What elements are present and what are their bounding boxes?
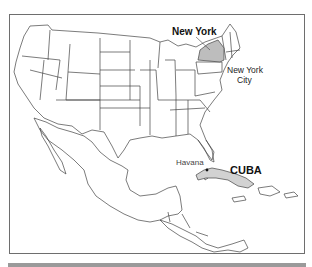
new-york-city-label-line2: City [237, 76, 252, 85]
bottom-bar [8, 263, 306, 267]
new-york-city-label-line1: New York [227, 66, 263, 75]
mexico-outline [34, 118, 182, 222]
map-of-us-mexico-caribbean [0, 0, 312, 267]
new-york-state [198, 40, 224, 62]
havana-label: Havana [176, 159, 204, 167]
cuba-label: CUBA [230, 165, 262, 176]
havana-point [206, 169, 209, 172]
new-york-state-label: New York [172, 27, 217, 37]
